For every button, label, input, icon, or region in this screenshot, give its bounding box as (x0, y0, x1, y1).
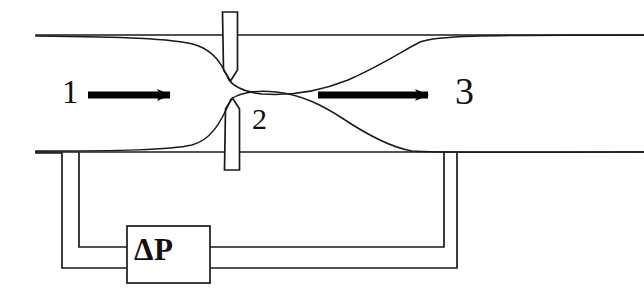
streamline-upper (36, 35, 644, 94)
dp-transmitter-label: ΔP (134, 234, 173, 265)
streamline-lower (36, 91, 644, 152)
impulse-line-left-inner (79, 153, 127, 247)
diagram-canvas (0, 0, 644, 299)
orifice-meter-diagram: 1 2 3 ΔP (0, 0, 644, 299)
station-label-throat: 2 (252, 104, 267, 134)
impulse-line-right-inner (210, 153, 444, 247)
impulse-line-left-outer (36, 152, 127, 268)
impulse-line-right-outer (210, 153, 457, 268)
station-label-downstream: 3 (455, 72, 474, 110)
station-label-upstream: 1 (62, 76, 79, 109)
